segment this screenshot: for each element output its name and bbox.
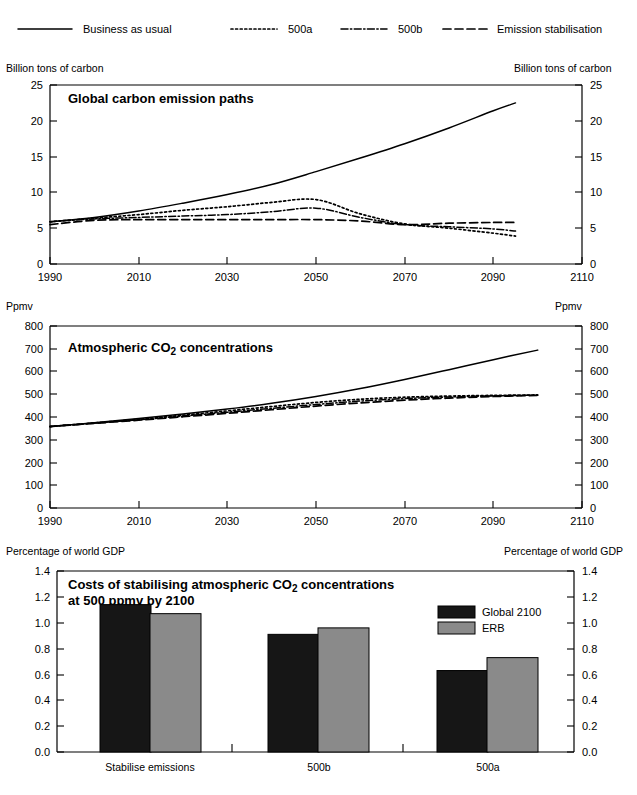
figure-page: Business as usual 500a 500b Emission sta… bbox=[0, 0, 637, 795]
panel1-line-business-as-usual bbox=[50, 103, 516, 222]
panel1-ytick-15: 15 bbox=[31, 151, 43, 163]
panel1-ylabel-right: Billion tons of carbon bbox=[514, 62, 612, 74]
panel1-title: Global carbon emission paths bbox=[68, 91, 254, 106]
panel2-title-part1: Atmospheric CO bbox=[68, 340, 171, 355]
panel2-ytick-right-400: 400 bbox=[590, 411, 608, 423]
panel3-ylabel-left: Percentage of world GDP bbox=[6, 545, 125, 557]
panel2-ytick-right-200: 200 bbox=[590, 457, 608, 469]
panel2-yticks-right: 800 700 600 500 400 300 200 100 0 bbox=[575, 320, 608, 514]
panel1-xtick-2010: 2010 bbox=[127, 271, 151, 283]
panel2-ytick-0: 0 bbox=[37, 502, 43, 514]
panel2-xtick-2010: 2010 bbox=[127, 515, 151, 527]
panel1-xtick-2030: 2030 bbox=[215, 271, 239, 283]
legend-label-500a: 500a bbox=[288, 23, 313, 35]
panel3-legend: Global 2100 ERB bbox=[438, 606, 541, 634]
panel3-ytick-0-8: 0.8 bbox=[35, 643, 50, 655]
panel1-xtick-2050: 2050 bbox=[304, 271, 328, 283]
panel2-xtick-2090: 2090 bbox=[481, 515, 505, 527]
panel2-xtick-2030: 2030 bbox=[215, 515, 239, 527]
panel3-xtick-stabilise-emissions: Stabilise emissions bbox=[105, 761, 194, 773]
panel1-line-emission-stabilisation bbox=[50, 220, 516, 225]
panel2-ylabel-left: Ppmv bbox=[6, 300, 34, 312]
three-panel-figure: Business as usual 500a 500b Emission sta… bbox=[0, 0, 637, 795]
panel1-xtick-2110: 2110 bbox=[570, 271, 594, 283]
panel1-ytick-right-20: 20 bbox=[590, 115, 602, 127]
panel3-ytick-right-1-4: 1.4 bbox=[582, 565, 597, 577]
panel3-ytick-right-0-8: 0.8 bbox=[582, 643, 597, 655]
panel1-ytick-right-10: 10 bbox=[590, 186, 602, 198]
bar-global2100-500b[interactable] bbox=[268, 634, 319, 752]
panel1-ylabel-left: Billion tons of carbon bbox=[6, 62, 104, 74]
bar-global2100-500a[interactable] bbox=[437, 671, 488, 752]
panel1-ytick-right-0: 0 bbox=[590, 258, 596, 270]
panel3-ytick-0-6: 0.6 bbox=[35, 669, 50, 681]
legend-label-business-as-usual: Business as usual bbox=[83, 23, 172, 35]
panel3-title-line1: Costs of stabilising atmospheric CO2 con… bbox=[68, 577, 394, 594]
panel2-ytick-right-700: 700 bbox=[590, 343, 608, 355]
panel2-ytick-right-500: 500 bbox=[590, 388, 608, 400]
panel1-ytick-right-25: 25 bbox=[590, 79, 602, 91]
panel3-ytick-0-4: 0.4 bbox=[35, 694, 50, 706]
panel2-title: Atmospheric CO2 concentrations bbox=[68, 340, 273, 357]
panel2-xtick-1990: 1990 bbox=[38, 515, 62, 527]
shared-legend: Business as usual 500a 500b Emission sta… bbox=[18, 23, 602, 35]
panel2-ylabel-right: Ppmv bbox=[555, 300, 583, 312]
legend-label-emission-stabilisation: Emission stabilisation bbox=[497, 23, 602, 35]
panel1-ytick-10: 10 bbox=[31, 186, 43, 198]
legend-swatch-global-2100 bbox=[438, 606, 475, 618]
bar-erb-500b[interactable] bbox=[318, 628, 369, 752]
panel3-ytick-0-2: 0.2 bbox=[35, 720, 50, 732]
panel3-category-labels: Stabilise emissions 500b 500a bbox=[105, 761, 499, 773]
panel3-yticks-right: 1.4 1.2 1.0 0.8 0.6 0.4 0.2 0.0 bbox=[567, 565, 597, 758]
panel3-xtick-500b: 500b bbox=[307, 761, 331, 773]
panel1-yticks-right: 25 20 15 10 5 0 bbox=[575, 79, 602, 270]
panel1-ytick-right-5: 5 bbox=[590, 222, 596, 234]
panel2-ytick-right-800: 800 bbox=[590, 320, 608, 332]
panel2-yticks-left: 800 700 600 500 400 300 200 100 0 bbox=[25, 320, 57, 514]
panel2-ytick-right-300: 300 bbox=[590, 434, 608, 446]
panel2-ytick-right-100: 100 bbox=[590, 479, 608, 491]
panel1-xtick-2090: 2090 bbox=[481, 271, 505, 283]
panel2-series-group bbox=[50, 350, 538, 426]
panel-co2-concentrations: Ppmv Ppmv Atmospheric CO2 concentrations bbox=[6, 300, 608, 527]
panel2-xticks: 1990 2010 2030 2050 2070 2090 2110 bbox=[38, 501, 594, 527]
panel1-ytick-right-15: 15 bbox=[590, 151, 602, 163]
panel3-ytick-right-0-0: 0.0 bbox=[582, 746, 597, 758]
panel1-ytick-20: 20 bbox=[31, 115, 43, 127]
panel1-xticks: 1990 2010 2030 2050 2070 2090 2110 bbox=[38, 257, 594, 283]
panel3-ytick-1-4: 1.4 bbox=[35, 565, 50, 577]
panel3-ytick-right-0-4: 0.4 bbox=[582, 694, 597, 706]
legend-label-500b: 500b bbox=[398, 23, 422, 35]
bar-erb-500a[interactable] bbox=[487, 658, 538, 752]
panel3-ytick-right-0-6: 0.6 bbox=[582, 669, 597, 681]
legend-label-global-2100: Global 2100 bbox=[482, 606, 541, 618]
panel1-yticks-left: 25 20 15 10 5 0 bbox=[31, 79, 57, 270]
panel3-xtick-500a: 500a bbox=[476, 761, 500, 773]
panel2-ytick-600: 600 bbox=[25, 365, 43, 377]
panel2-ytick-200: 200 bbox=[25, 457, 43, 469]
panel3-ylabel-right: Percentage of world GDP bbox=[504, 545, 623, 557]
panel2-xtick-2050: 2050 bbox=[304, 515, 328, 527]
panel3-yticks-left: 1.4 1.2 1.0 0.8 0.6 0.4 0.2 0.0 bbox=[35, 565, 64, 758]
panel2-xtick-2070: 2070 bbox=[393, 515, 417, 527]
panel2-ytick-500: 500 bbox=[25, 388, 43, 400]
panel2-ytick-400: 400 bbox=[25, 411, 43, 423]
panel2-ytick-right-600: 600 bbox=[590, 365, 608, 377]
panel1-ytick-25: 25 bbox=[31, 79, 43, 91]
panel2-ytick-100: 100 bbox=[25, 479, 43, 491]
panel2-xtick-2110: 2110 bbox=[570, 515, 594, 527]
panel2-ytick-800: 800 bbox=[25, 320, 43, 332]
panel3-ytick-1-2: 1.2 bbox=[35, 591, 50, 603]
panel-emission-paths: Billion tons of carbon Billion tons of c… bbox=[6, 62, 612, 283]
panel3-ytick-right-0-2: 0.2 bbox=[582, 720, 597, 732]
panel3-ytick-right-1-0: 1.0 bbox=[582, 617, 597, 629]
bar-global2100-stabilise-emissions[interactable] bbox=[100, 605, 151, 752]
panel2-ytick-700: 700 bbox=[25, 343, 43, 355]
panel1-series-group bbox=[50, 103, 516, 236]
panel2-ytick-right-0: 0 bbox=[590, 502, 596, 514]
bar-erb-stabilise-emissions[interactable] bbox=[150, 614, 201, 752]
panel1-xtick-1990: 1990 bbox=[38, 271, 62, 283]
panel3-ytick-right-1-2: 1.2 bbox=[582, 591, 597, 603]
legend-swatch-erb bbox=[438, 622, 475, 634]
panel1-ytick-5: 5 bbox=[37, 222, 43, 234]
